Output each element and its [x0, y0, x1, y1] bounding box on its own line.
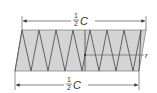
top-frac-numerator: 1 [74, 12, 78, 19]
spring-diagram: r 1 2 C 1 2 C [0, 0, 157, 93]
radius-label: r [145, 51, 148, 60]
top-dimension-label: 1 2 C [73, 12, 88, 27]
top-dim-symbol: C [80, 15, 88, 27]
diagram-canvas: r 1 2 C 1 2 C [0, 0, 157, 93]
bottom-dim-symbol: C [73, 79, 81, 91]
bottom-frac-denominator: 2 [67, 84, 71, 91]
radius-origin-dot [84, 54, 86, 56]
bottom-dimension-label: 1 2 C [66, 76, 81, 91]
top-frac-denominator: 2 [74, 20, 78, 27]
bottom-frac-numerator: 1 [67, 76, 71, 83]
